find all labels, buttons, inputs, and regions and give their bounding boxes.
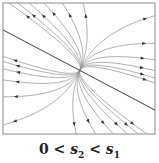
plot-frame [3,3,155,134]
caption-zero: 0 [39,141,49,157]
caption-s2: s [70,141,78,157]
phase-portrait [0,0,159,140]
caption-s1: s [106,141,114,157]
caption: 0 < s2 < s1 [0,141,159,160]
